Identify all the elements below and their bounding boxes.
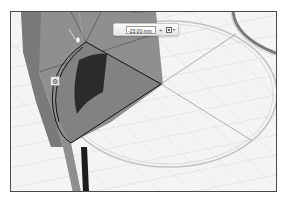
chevron-down-icon: ▾ [173, 27, 175, 32]
extent-options-icon [166, 27, 172, 33]
direction-options-dropdown[interactable]: ▾ [166, 27, 175, 33]
dark-slot [81, 147, 89, 192]
model-canvas[interactable] [11, 12, 277, 192]
gear-icon: ⚙ [52, 78, 58, 85]
stepper-icon[interactable]: + [159, 26, 163, 34]
distance-input[interactable]: -23.00 mm [126, 26, 156, 34]
settings-gear-button[interactable]: ⚙ [50, 76, 60, 86]
3d-viewport[interactable]: -23.00 mm + ▾ ⚙ [10, 11, 277, 192]
dimension-input-box: -23.00 mm + ▾ [113, 23, 179, 36]
